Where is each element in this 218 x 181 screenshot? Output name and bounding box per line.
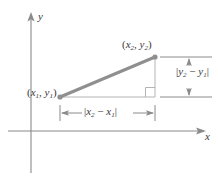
right-angle-marker: [146, 88, 156, 98]
distance-formula-diagram: (x2, y2) (x1, y1) |x2 − x1| |y2 − y1| y …: [0, 0, 218, 181]
point-2-label: (x2, y2): [122, 39, 152, 50]
point-1-y-subscript: 1: [49, 92, 53, 100]
vertical-dimension-label: |y2 − y1|: [176, 66, 209, 77]
hypotenuse-line: [60, 57, 155, 97]
dx-sub-b: 1: [111, 111, 115, 119]
dx-sub-a: 2: [91, 111, 95, 119]
segment-group: [57, 54, 157, 99]
point-1-dot: [57, 94, 62, 99]
point-2-y-subscript: 2: [144, 44, 148, 52]
dy-sub-b: 1: [203, 71, 207, 79]
dy-sub-a: 2: [183, 71, 187, 79]
x-axis-label: x: [205, 131, 210, 142]
y-axis-label: y: [38, 11, 43, 22]
point-1-x-subscript: 1: [36, 92, 40, 100]
horizontal-dimension-label: |x2 − x1|: [84, 106, 117, 117]
point-1-label: (x1, y1): [27, 87, 57, 98]
point-2-x-subscript: 2: [131, 44, 135, 52]
point-2-dot: [152, 54, 157, 59]
